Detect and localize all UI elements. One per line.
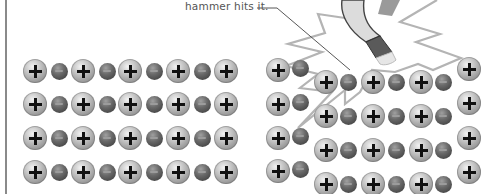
positive-ion-icon (266, 58, 290, 82)
negative-ion-icon (194, 164, 211, 181)
negative-ion-icon (99, 63, 116, 80)
positive-ion-icon (166, 126, 190, 150)
negative-ion-icon (435, 108, 452, 125)
positive-ion-icon (23, 126, 47, 150)
negative-ion-icon (51, 130, 68, 147)
positive-ion-icon (23, 59, 47, 83)
positive-ion-icon (166, 92, 190, 116)
positive-ion-icon (214, 126, 238, 150)
positive-ion-icon (266, 126, 290, 150)
positive-ion-icon (409, 104, 433, 128)
positive-ion-icon (118, 59, 142, 83)
hammer-icon (342, 0, 400, 65)
positive-ion-icon (409, 70, 433, 94)
positive-ion-icon (361, 104, 385, 128)
negative-ion-icon (194, 130, 211, 147)
negative-ion-icon (292, 94, 309, 111)
positive-ion-icon (71, 160, 95, 184)
negative-ion-icon (340, 176, 357, 193)
positive-ion-icon (166, 160, 190, 184)
positive-ion-icon (266, 159, 290, 183)
positive-ion-icon (409, 138, 433, 162)
positive-ion-icon (314, 70, 338, 94)
negative-ion-icon (340, 74, 357, 91)
negative-ion-icon (146, 63, 163, 80)
negative-ion-icon (99, 130, 116, 147)
positive-ion-icon (23, 92, 47, 116)
negative-ion-icon (146, 96, 163, 113)
negative-ion-icon (292, 161, 309, 178)
negative-ion-icon (435, 74, 452, 91)
negative-ion-icon (99, 164, 116, 181)
positive-ion-icon (118, 160, 142, 184)
positive-ion-icon (361, 70, 385, 94)
positive-ion-icon (214, 160, 238, 184)
positive-ion-icon (266, 92, 290, 116)
negative-ion-icon (51, 63, 68, 80)
positive-ion-icon (457, 126, 481, 150)
negative-ion-icon (340, 108, 357, 125)
positive-ion-icon (71, 92, 95, 116)
negative-ion-icon (194, 96, 211, 113)
positive-ion-icon (361, 172, 385, 194)
negative-ion-icon (435, 176, 452, 193)
negative-ion-icon (99, 96, 116, 113)
positive-ion-icon (314, 172, 338, 194)
positive-ion-icon (71, 126, 95, 150)
negative-ion-icon (146, 130, 163, 147)
positive-ion-icon (71, 59, 95, 83)
negative-ion-icon (51, 164, 68, 181)
positive-ion-icon (118, 92, 142, 116)
caption-label: hammer hits it. (185, 0, 269, 12)
negative-ion-icon (146, 164, 163, 181)
positive-ion-icon (214, 59, 238, 83)
negative-ion-icon (292, 60, 309, 77)
positive-ion-icon (314, 104, 338, 128)
negative-ion-icon (388, 74, 405, 91)
ionic-crystal-diagram: hammer hits it. (0, 0, 489, 194)
positive-ion-icon (409, 172, 433, 194)
negative-ion-icon (340, 142, 357, 159)
positive-ion-icon (118, 126, 142, 150)
positive-ion-icon (457, 57, 481, 81)
negative-ion-icon (388, 176, 405, 193)
positive-ion-icon (457, 91, 481, 115)
negative-ion-icon (51, 96, 68, 113)
positive-ion-icon (314, 138, 338, 162)
positive-ion-icon (457, 160, 481, 184)
negative-ion-icon (388, 142, 405, 159)
positive-ion-icon (214, 92, 238, 116)
positive-ion-icon (166, 59, 190, 83)
negative-ion-icon (194, 63, 211, 80)
positive-ion-icon (23, 160, 47, 184)
negative-ion-icon (292, 128, 309, 145)
negative-ion-icon (435, 142, 452, 159)
negative-ion-icon (388, 108, 405, 125)
positive-ion-icon (361, 138, 385, 162)
